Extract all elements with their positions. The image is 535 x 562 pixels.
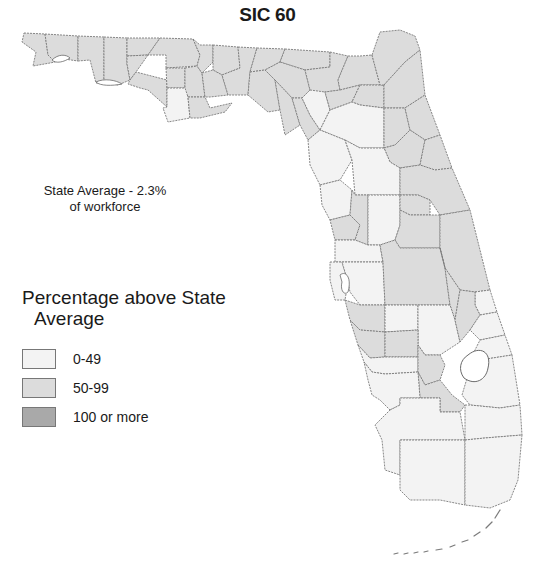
county-flagler bbox=[420, 135, 452, 170]
legend-item-mid: 50-99 bbox=[22, 373, 148, 402]
county-monroe bbox=[400, 440, 465, 505]
legend-title-line1: Percentage above State bbox=[22, 287, 226, 308]
panhandle-counties bbox=[22, 33, 330, 140]
state-average-note: State Average - 2.3% of workforce bbox=[20, 183, 190, 215]
legend-swatch-low bbox=[22, 349, 56, 369]
legend: 0-49 50-99 100 or more bbox=[22, 344, 148, 431]
state-average-line2: of workforce bbox=[20, 199, 190, 215]
legend-item-high: 100 or more bbox=[22, 402, 148, 431]
county-orange bbox=[395, 210, 440, 248]
lake-okeechobee bbox=[461, 350, 489, 381]
county-calhoun bbox=[166, 68, 185, 88]
central-counties bbox=[320, 180, 512, 360]
county-walton bbox=[104, 37, 130, 85]
state-average-line1: State Average - 2.3% bbox=[20, 183, 190, 199]
legend-label-high: 100 or more bbox=[73, 409, 148, 425]
county-miami-dade bbox=[465, 435, 522, 508]
legend-swatch-mid bbox=[22, 378, 56, 398]
florida-county-map bbox=[0, 0, 535, 562]
county-broward bbox=[465, 405, 522, 440]
county-lake bbox=[368, 195, 400, 245]
county-indian-river bbox=[475, 290, 497, 315]
legend-label-low: 0-49 bbox=[73, 351, 101, 367]
county-citrus bbox=[320, 180, 352, 220]
legend-title-line2: Average bbox=[22, 308, 226, 329]
florida-keys bbox=[394, 510, 500, 554]
south-counties bbox=[358, 345, 522, 508]
county-polk bbox=[380, 240, 450, 305]
legend-swatch-high bbox=[22, 407, 56, 427]
county-hardee bbox=[385, 305, 418, 332]
legend-item-low: 0-49 bbox=[22, 344, 148, 373]
legend-label-mid: 50-99 bbox=[73, 380, 109, 396]
county-bay bbox=[128, 72, 167, 107]
county-gulf bbox=[163, 88, 190, 122]
county-franklin bbox=[188, 97, 232, 118]
legend-title: Percentage above State Average bbox=[22, 287, 226, 329]
county-okaloosa bbox=[78, 36, 104, 83]
county-desoto bbox=[385, 330, 418, 357]
